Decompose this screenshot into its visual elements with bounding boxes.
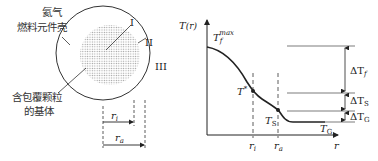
label-helium: 氦气 [42,6,63,18]
tick-label-ra: ra [274,140,283,153]
label-delta-ts: ΔTS [350,95,369,108]
label-matrix-2: 的基体 [24,105,55,117]
label-t-star: T* [237,85,248,97]
tick-label-ri: ri [249,140,256,153]
t-s-point [276,108,280,112]
y-axis-label: T(r) [179,20,197,31]
label-t-g: TG [320,123,333,136]
label-region-2: II [145,37,153,48]
label-fuel-shell: 燃料元件壳 [17,21,68,33]
label-ri: ri [111,110,118,123]
x-axis-label: r [334,140,340,151]
label-region-1: I [130,17,134,28]
label-region-3: III [155,61,167,72]
label-delta-tf: ΔTf [350,65,368,78]
t-star-point [251,89,255,93]
label-ra: ra [115,132,124,145]
fuel-element-cross-section: 氦气 燃料元件壳 含包覆颗粒 的基体 I II III ri ra [12,6,167,148]
fuel-matrix-region [80,25,140,85]
diagram-canvas: 氦气 燃料元件壳 含包覆颗粒 的基体 I II III ri ra T(r) r… [0,0,378,161]
label-t-s: TS [265,115,277,128]
temperature-profile-chart: T(r) r Tfmax T* TS TG ri ra ΔTf ΔTS ΔTG [179,20,370,153]
label-matrix: 含包覆颗粒 [12,91,63,103]
label-t-max: Tfmax [213,29,234,45]
